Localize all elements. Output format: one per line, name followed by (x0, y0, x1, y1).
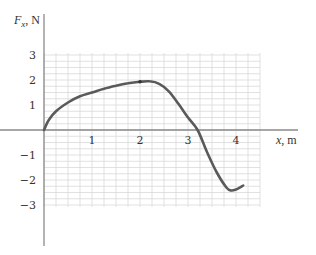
y-axis-label-unit: , N (25, 13, 40, 27)
data-markers (138, 80, 142, 84)
x-tick-label: 2 (137, 134, 144, 147)
y-tick-label: 3 (29, 49, 36, 62)
x-tick-label: 1 (89, 134, 96, 147)
x-tick-label: 4 (233, 134, 240, 147)
y-tick-label: −3 (20, 199, 36, 212)
x-tick-label: 3 (185, 134, 192, 147)
y-tick-label: −2 (20, 174, 36, 187)
force-position-chart: 1234321−1−2−3 Fx, N x, m (0, 0, 316, 255)
y-tick-label: 1 (29, 99, 36, 112)
x-axis-label-unit: , m (281, 133, 297, 147)
data-point-marker (138, 80, 142, 84)
y-tick-label: −1 (20, 149, 36, 162)
y-tick-label: 2 (29, 74, 36, 87)
y-axis-label: Fx, N (13, 13, 40, 29)
x-axis-label: x, m (275, 133, 297, 147)
